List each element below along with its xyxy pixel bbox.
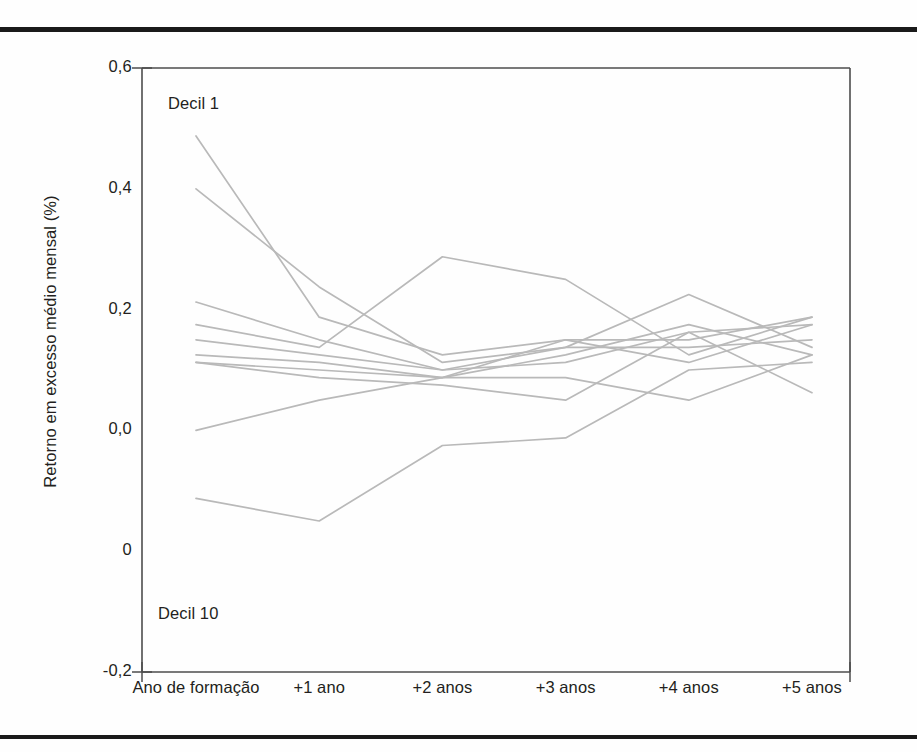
x-tick-label-2: +2 anos: [412, 678, 472, 697]
series-line-1: [196, 136, 812, 355]
x-tick-label-4: +4 anos: [659, 678, 719, 697]
x-tick-label-3: +3 anos: [536, 678, 596, 697]
series-line-2: [196, 189, 812, 363]
chart-canvas: [0, 32, 917, 735]
bottom-divider-rule: [0, 735, 917, 739]
y-tick-label-4: 0: [123, 540, 132, 559]
y-tick-label-3: 0,0: [108, 419, 132, 438]
y-tick-label-5: -0,2: [103, 661, 132, 680]
y-tick-label-2: 0,2: [108, 299, 132, 318]
x-tick-label-0: Ano de formação: [132, 678, 259, 697]
annotation-decil-1: Decil 1: [168, 94, 219, 113]
y-tick-label-0: 0,6: [108, 57, 132, 76]
annotation-decil-10: Decil 10: [158, 604, 218, 623]
figure-container: Retorno em excesso médio mensal (%) 0,60…: [0, 0, 917, 752]
axes-group: [132, 68, 850, 682]
x-tick-label-1: +1 ano: [293, 678, 345, 697]
series-line-10: [196, 362, 812, 521]
y-tick-label-1: 0,4: [108, 178, 132, 197]
x-tick-label-5: +5 anos: [782, 678, 842, 697]
series-group: [196, 136, 812, 521]
chart-plot-area: Retorno em excesso médio mensal (%) 0,60…: [0, 32, 917, 735]
